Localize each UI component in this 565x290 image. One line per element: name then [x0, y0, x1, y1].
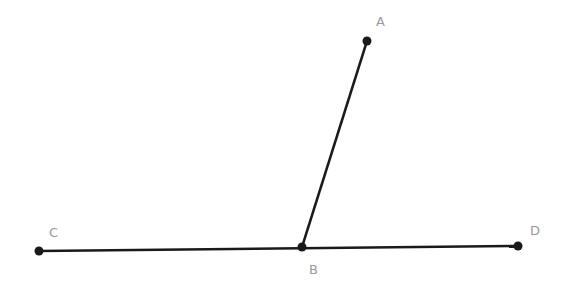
point-c [35, 247, 44, 256]
label-c: C [49, 225, 58, 240]
point-b [298, 243, 307, 252]
segment-cd [39, 246, 518, 251]
label-d: D [530, 223, 540, 238]
label-a: A [376, 14, 385, 29]
label-b: B [309, 262, 318, 277]
segment-ba [302, 41, 367, 247]
point-d [514, 242, 523, 251]
point-a [363, 37, 372, 46]
geometry-diagram: A B C D [0, 0, 565, 290]
